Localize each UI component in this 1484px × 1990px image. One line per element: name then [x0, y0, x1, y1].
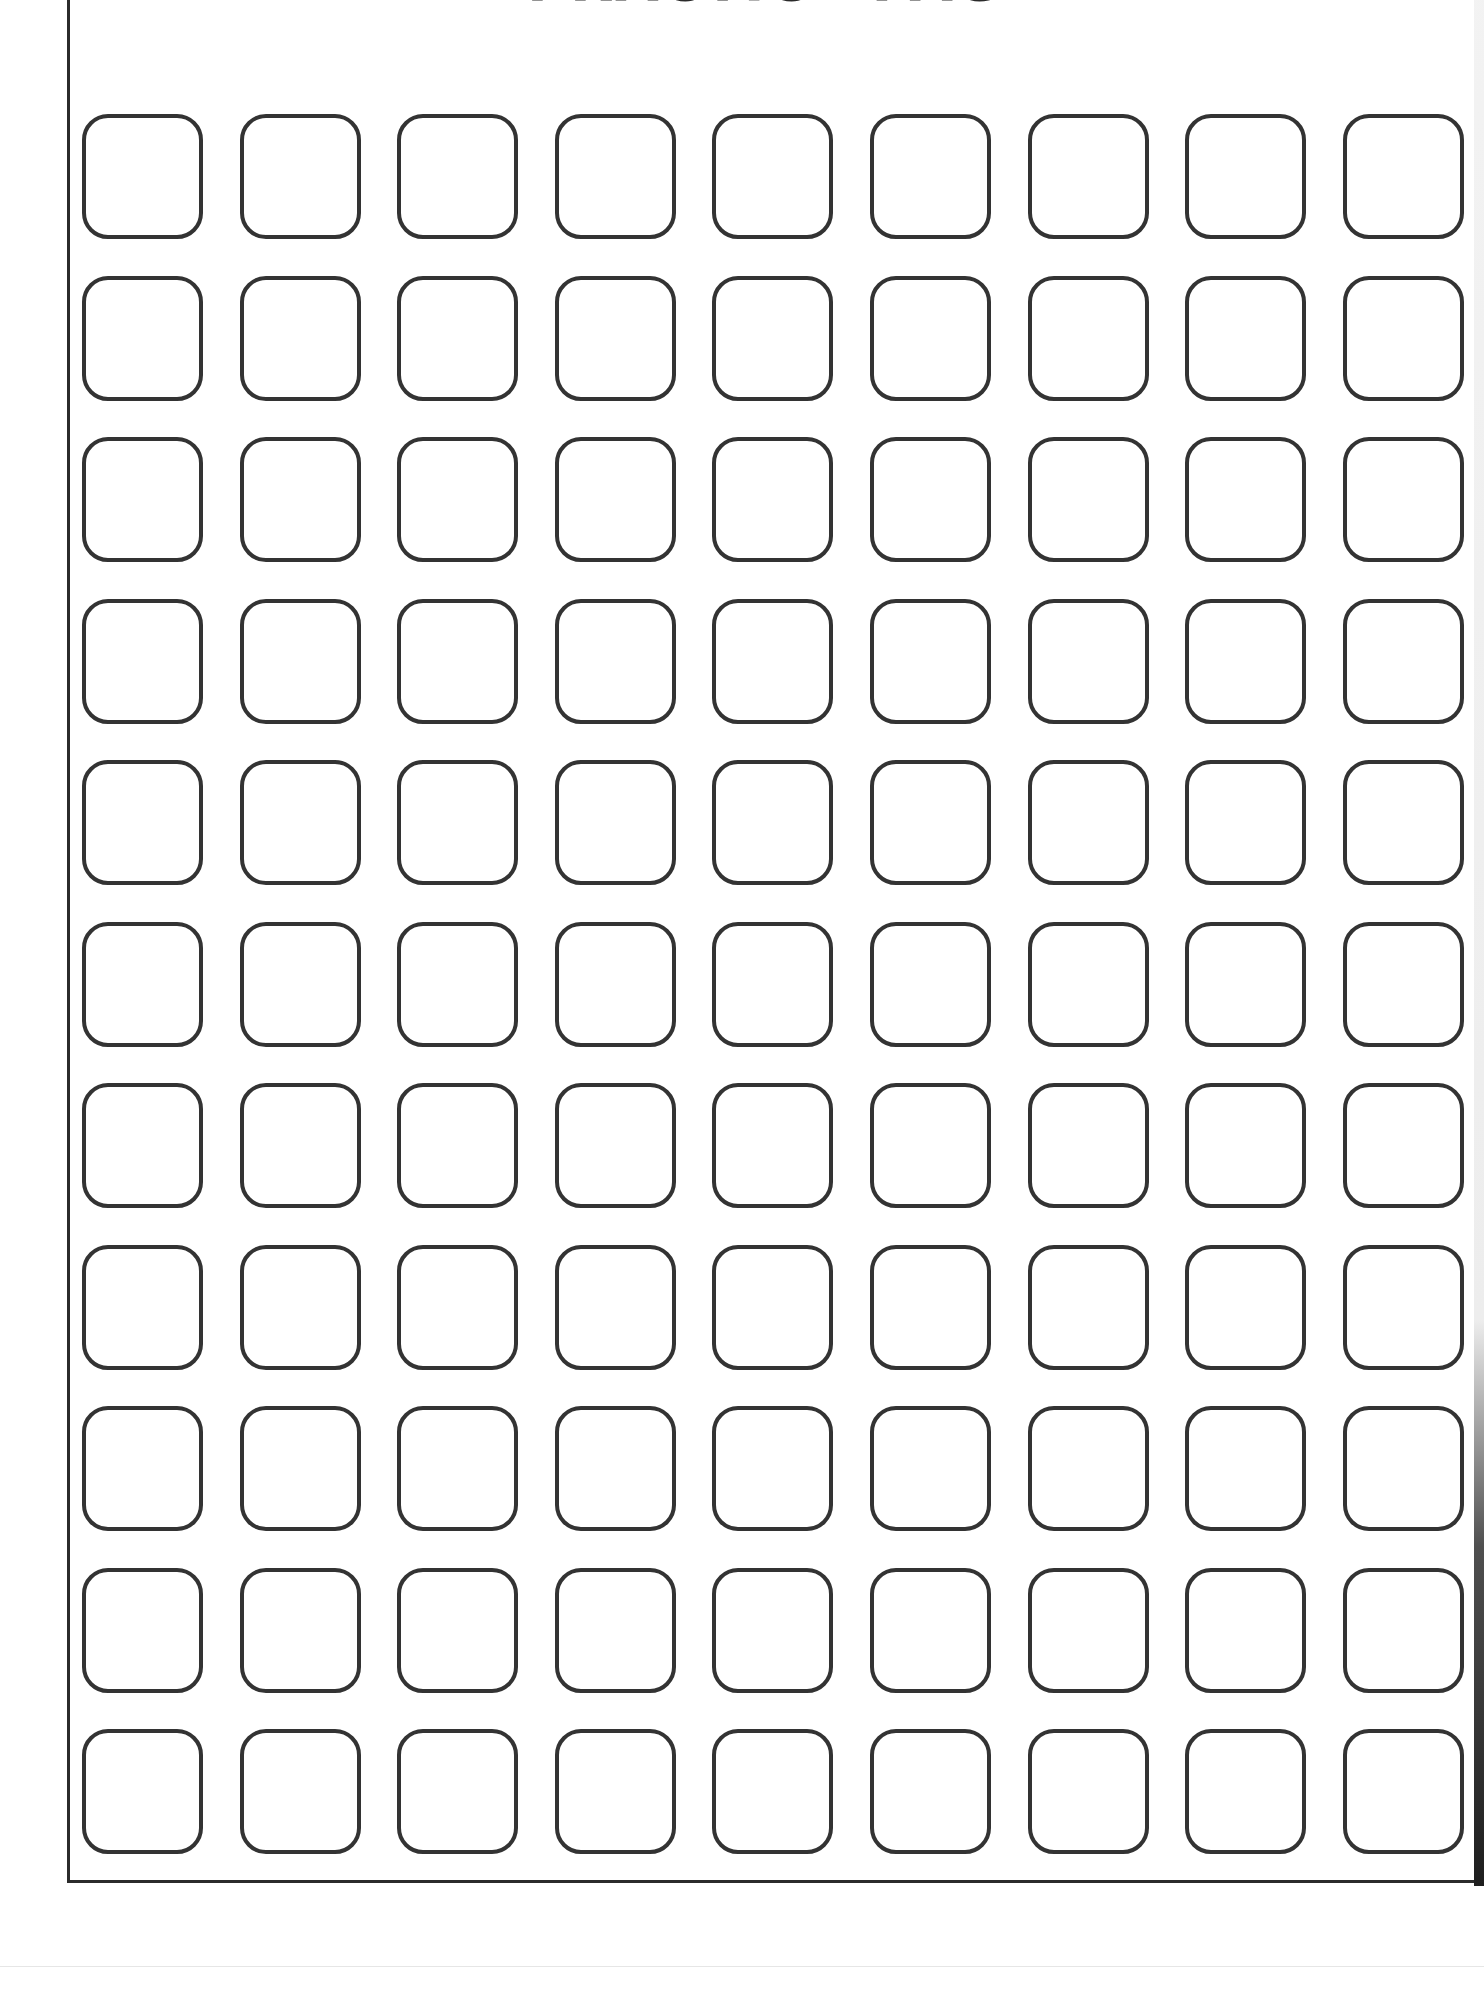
tally-box-r11-c5 [712, 1729, 833, 1854]
tally-box-r6-c5 [712, 922, 833, 1047]
tally-box-r6-c4 [555, 922, 676, 1047]
tally-box-r2-c8 [1185, 276, 1306, 401]
tally-box-r11-c9 [1343, 1729, 1464, 1854]
tally-box-r9-c4 [555, 1406, 676, 1531]
tally-box-r1-c3 [397, 114, 518, 239]
tally-box-r4-c1 [82, 599, 203, 724]
tally-box-r7-c7 [1028, 1083, 1149, 1208]
tally-box-r2-c9 [1343, 276, 1464, 401]
tally-box-r2-c7 [1028, 276, 1149, 401]
tally-box-r5-c4 [555, 760, 676, 885]
tally-box-r10-c6 [870, 1568, 991, 1693]
tally-box-r5-c7 [1028, 760, 1149, 885]
tally-box-r11-c3 [397, 1729, 518, 1854]
tally-box-r6-c2 [240, 922, 361, 1047]
tally-box-r4-c6 [870, 599, 991, 724]
tally-box-r6-c9 [1343, 922, 1464, 1047]
tally-box-r2-c1 [82, 276, 203, 401]
tally-box-r4-c2 [240, 599, 361, 724]
scan-shadow-edge [1474, 0, 1484, 1886]
tally-box-r10-c5 [712, 1568, 833, 1693]
tally-box-r4-c7 [1028, 599, 1149, 724]
scan-edge-line [0, 1966, 1484, 1967]
tally-box-r3-c8 [1185, 437, 1306, 562]
tally-box-r1-c6 [870, 114, 991, 239]
tally-box-r11-c7 [1028, 1729, 1149, 1854]
tally-box-r10-c7 [1028, 1568, 1149, 1693]
tally-box-r7-c8 [1185, 1083, 1306, 1208]
tally-box-r7-c9 [1343, 1083, 1464, 1208]
tally-box-r1-c8 [1185, 114, 1306, 239]
tally-box-r9-c7 [1028, 1406, 1149, 1531]
tally-box-r9-c8 [1185, 1406, 1306, 1531]
tally-box-r5-c2 [240, 760, 361, 885]
tally-box-r4-c4 [555, 599, 676, 724]
tally-box-r3-c3 [397, 437, 518, 562]
tally-box-r2-c2 [240, 276, 361, 401]
tally-box-r7-c6 [870, 1083, 991, 1208]
tally-box-r11-c1 [82, 1729, 203, 1854]
tally-box-r1-c1 [82, 114, 203, 239]
tally-box-r5-c1 [82, 760, 203, 885]
tally-box-r3-c7 [1028, 437, 1149, 562]
tally-box-r10-c9 [1343, 1568, 1464, 1693]
tally-box-r5-c3 [397, 760, 518, 885]
tally-box-r5-c5 [712, 760, 833, 885]
tally-box-r4-c9 [1343, 599, 1464, 724]
tally-box-r7-c3 [397, 1083, 518, 1208]
tally-box-r8-c1 [82, 1245, 203, 1370]
tally-box-r1-c4 [555, 114, 676, 239]
tally-box-r8-c8 [1185, 1245, 1306, 1370]
tally-box-r10-c2 [240, 1568, 361, 1693]
tally-box-r1-c9 [1343, 114, 1464, 239]
tally-box-r7-c5 [712, 1083, 833, 1208]
tally-box-r6-c6 [870, 922, 991, 1047]
tally-box-r7-c4 [555, 1083, 676, 1208]
tally-box-r3-c2 [240, 437, 361, 562]
tally-box-r4-c3 [397, 599, 518, 724]
tally-box-r10-c3 [397, 1568, 518, 1693]
tally-box-r11-c8 [1185, 1729, 1306, 1854]
tally-box-r5-c8 [1185, 760, 1306, 885]
tally-box-r2-c4 [555, 276, 676, 401]
tally-box-r6-c8 [1185, 922, 1306, 1047]
tally-box-r6-c3 [397, 922, 518, 1047]
tally-box-r3-c6 [870, 437, 991, 562]
tally-box-r5-c9 [1343, 760, 1464, 885]
tally-box-r8-c3 [397, 1245, 518, 1370]
tally-box-r8-c5 [712, 1245, 833, 1370]
tally-box-r10-c4 [555, 1568, 676, 1693]
tally-box-r1-c5 [712, 114, 833, 239]
tally-box-r3-c4 [555, 437, 676, 562]
tally-box-r5-c6 [870, 760, 991, 885]
tally-box-r8-c4 [555, 1245, 676, 1370]
tally-box-r6-c7 [1028, 922, 1149, 1047]
tally-box-r1-c2 [240, 114, 361, 239]
tally-box-r11-c6 [870, 1729, 991, 1854]
tally-box-r11-c2 [240, 1729, 361, 1854]
tally-box-r3-c1 [82, 437, 203, 562]
tally-box-r2-c3 [397, 276, 518, 401]
tally-box-r4-c5 [712, 599, 833, 724]
tally-box-r8-c2 [240, 1245, 361, 1370]
tally-box-r7-c1 [82, 1083, 203, 1208]
tally-box-r2-c6 [870, 276, 991, 401]
tally-box-r3-c9 [1343, 437, 1464, 562]
tally-box-r6-c1 [82, 922, 203, 1047]
tally-box-r9-c3 [397, 1406, 518, 1531]
tally-box-r8-c6 [870, 1245, 991, 1370]
tally-box-r9-c5 [712, 1406, 833, 1531]
tally-box-r9-c1 [82, 1406, 203, 1531]
tally-box-r9-c9 [1343, 1406, 1464, 1531]
tally-box-r10-c1 [82, 1568, 203, 1693]
tally-box-r3-c5 [712, 437, 833, 562]
tally-box-r8-c9 [1343, 1245, 1464, 1370]
tally-box-r2-c5 [712, 276, 833, 401]
tally-box-r9-c2 [240, 1406, 361, 1531]
tally-box-r8-c7 [1028, 1245, 1149, 1370]
tally-box-r10-c8 [1185, 1568, 1306, 1693]
tally-box-r7-c2 [240, 1083, 361, 1208]
tally-box-grid [82, 114, 1464, 1854]
tally-box-r1-c7 [1028, 114, 1149, 239]
tally-box-r4-c8 [1185, 599, 1306, 724]
